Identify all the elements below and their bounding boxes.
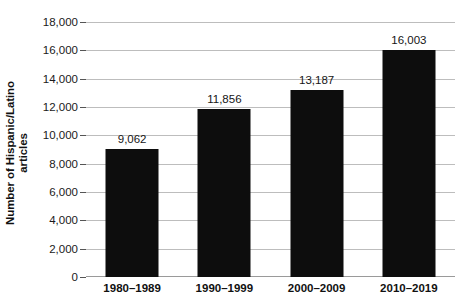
y-tick-label: 16,000 <box>24 44 78 56</box>
x-tick-label: 2000–2009 <box>288 282 346 294</box>
x-axis-tick-labels: 1980–19891990–19992000–20092010–2019 <box>86 282 455 302</box>
y-tickmark <box>80 277 86 278</box>
x-tick-label: 2010–2019 <box>380 282 438 294</box>
bar-group: 13,187 <box>271 22 363 277</box>
bars-layer: 9,06211,85613,18716,003 <box>86 22 455 277</box>
x-tick-label: 1980–1989 <box>103 282 161 294</box>
bar-value-label: 11,856 <box>207 93 241 105</box>
y-tick-label: 12,000 <box>24 101 78 113</box>
y-tick-label: 18,000 <box>24 16 78 28</box>
y-tick-label: 10,000 <box>24 129 78 141</box>
x-tick-label: 1990–1999 <box>196 282 254 294</box>
bar-value-label: 9,062 <box>118 133 147 145</box>
y-tick-label: 14,000 <box>24 73 78 85</box>
y-axis-title-line-1: Number of Hispanic/Latino <box>4 81 17 225</box>
y-tick-label: 6,000 <box>24 186 78 198</box>
bar-value-label: 13,187 <box>299 74 334 86</box>
bar[interactable] <box>290 90 343 277</box>
bar[interactable] <box>198 109 251 277</box>
y-tick-label: 0 <box>24 271 78 283</box>
y-axis-tick-labels: 02,0004,0006,0008,00010,00012,00014,0001… <box>24 0 78 306</box>
bar-group: 11,856 <box>178 22 270 277</box>
y-tick-label: 8,000 <box>24 158 78 170</box>
bar[interactable] <box>106 149 159 277</box>
bar-value-label: 16,003 <box>391 34 426 46</box>
bar-group: 9,062 <box>86 22 178 277</box>
y-tick-label: 2,000 <box>24 243 78 255</box>
bar-group: 16,003 <box>363 22 455 277</box>
y-tick-label: 4,000 <box>24 214 78 226</box>
bar-chart: Number of Hispanic/Latino articles 02,00… <box>0 0 462 306</box>
bar[interactable] <box>382 50 435 277</box>
